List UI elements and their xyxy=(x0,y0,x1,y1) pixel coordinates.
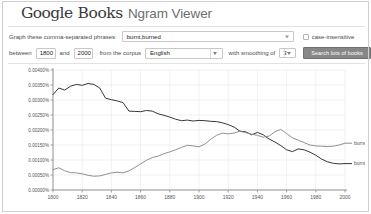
header-divider xyxy=(8,26,365,27)
svg-text:burnt: burnt xyxy=(354,160,365,166)
svg-text:0.00050%: 0.00050% xyxy=(28,173,49,178)
phrase-input[interactable]: burnt,burned xyxy=(122,31,294,42)
svg-text:2000: 2000 xyxy=(339,194,350,200)
phrase-input-value: burnt,burned xyxy=(123,34,161,40)
svg-text:0.00200%: 0.00200% xyxy=(28,128,49,133)
smoothing-label: with smoothing of xyxy=(229,50,276,56)
end-year-input[interactable]: 2000 xyxy=(74,48,94,59)
grid-lines xyxy=(53,70,345,190)
svg-text:0.00300%: 0.00300% xyxy=(28,98,49,103)
chart-svg: 0.00000%0.00050%0.00100%0.00150%0.00200%… xyxy=(8,64,365,210)
svg-text:1820: 1820 xyxy=(77,194,88,200)
svg-text:1980: 1980 xyxy=(310,194,321,200)
case-insensitive-label: case-insensitive xyxy=(312,34,355,40)
start-year-input[interactable]: 1800 xyxy=(36,48,56,59)
ngram-chart[interactable]: 0.00000%0.00050%0.00100%0.00150%0.00200%… xyxy=(8,64,365,210)
svg-text:1960: 1960 xyxy=(281,194,292,200)
svg-text:0.00350%: 0.00350% xyxy=(28,83,49,88)
books-wordmark: Books xyxy=(78,4,123,22)
start-year-value: 1800 xyxy=(37,50,53,56)
svg-text:1840: 1840 xyxy=(106,194,117,200)
corpus-label: from the corpus xyxy=(99,50,141,56)
svg-text:0.00100%: 0.00100% xyxy=(28,158,49,163)
chevron-down-icon[interactable] xyxy=(284,49,292,57)
search-button[interactable]: Search lots of books xyxy=(303,47,371,59)
page-header: Google Books Ngram Viewer xyxy=(0,0,371,27)
corpus-value: English xyxy=(146,50,170,56)
phrase-label: Graph these comma-separated phrases: xyxy=(9,34,117,40)
svg-text:1860: 1860 xyxy=(135,194,146,200)
google-wordmark: Google xyxy=(21,4,73,22)
corpus-select[interactable]: English xyxy=(145,48,222,59)
svg-text:1880: 1880 xyxy=(164,194,175,200)
ngram-viewer-page: Google Books Ngram Viewer Graph these co… xyxy=(0,0,371,214)
svg-text:1900: 1900 xyxy=(193,194,204,200)
svg-text:1800: 1800 xyxy=(47,194,58,200)
page-title: Ngram Viewer xyxy=(128,6,212,21)
and-label: and xyxy=(60,50,70,56)
svg-text:1920: 1920 xyxy=(223,194,234,200)
chevron-down-icon[interactable] xyxy=(210,49,219,58)
series-labels: burntburned xyxy=(345,140,365,166)
svg-text:burned: burned xyxy=(354,140,365,146)
svg-text:0.00250%: 0.00250% xyxy=(28,113,49,118)
google-books-logo[interactable]: Google Books Ngram Viewer xyxy=(21,4,212,22)
end-year-value: 2000 xyxy=(75,50,91,56)
between-label: between xyxy=(9,50,32,56)
query-row-options: between 1800 and 2000 from the corpus En… xyxy=(0,46,371,60)
svg-text:0.00000%: 0.00000% xyxy=(28,188,49,193)
smoothing-select[interactable]: 3 xyxy=(279,48,296,58)
case-insensitive-checkbox[interactable] xyxy=(303,34,309,40)
query-row-phrases: Graph these comma-separated phrases: bur… xyxy=(0,30,371,43)
y-axis: 0.00000%0.00050%0.00100%0.00150%0.00200%… xyxy=(28,68,53,193)
svg-text:0.00150%: 0.00150% xyxy=(28,143,49,148)
chevron-down-icon[interactable] xyxy=(285,35,289,38)
svg-text:1940: 1940 xyxy=(252,194,263,200)
x-axis: 1800182018401860188019001920194019601980… xyxy=(47,190,350,200)
svg-text:0.00400%: 0.00400% xyxy=(28,68,49,73)
